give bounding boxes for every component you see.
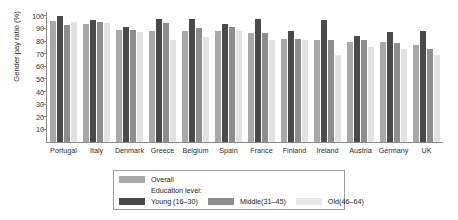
- x-tick-label-denmark: Denmark: [113, 146, 146, 155]
- x-tick-label-austria: Austria: [344, 146, 377, 155]
- y-tick-mark: [42, 28, 46, 29]
- legend-label-old: Old(46–64): [328, 197, 364, 206]
- bar-greece-overall: [149, 31, 155, 142]
- bar-finland-young: [288, 31, 294, 142]
- bar-belgium-middle: [196, 28, 202, 142]
- bar-portugal-old: [71, 22, 77, 142]
- bar-group-austria: [344, 12, 377, 142]
- bar-spain-middle: [229, 27, 235, 142]
- chart-figure: Gender pay ratio (%) 1020304050607080901…: [0, 0, 458, 220]
- bar-france-overall: [248, 33, 254, 142]
- bar-ireland-old: [335, 55, 341, 142]
- y-tick-mark: [42, 15, 46, 16]
- x-tick-label-finland: Finland: [278, 146, 311, 155]
- bar-austria-young: [354, 36, 360, 142]
- bar-portugal-middle: [64, 25, 70, 142]
- y-tick-mark: [42, 78, 46, 79]
- bar-group-finland: [278, 12, 311, 142]
- bar-portugal-overall: [50, 21, 56, 142]
- legend-label-overall: Overall: [151, 175, 174, 184]
- bar-finland-old: [302, 40, 308, 142]
- x-tick-label-spain: Spain: [212, 146, 245, 155]
- legend-row-education: Young (16–30) Middle(31–45) Old(46–64): [119, 196, 339, 207]
- y-tick-mark: [42, 116, 46, 117]
- bar-france-middle: [262, 33, 268, 142]
- bar-uk-middle: [427, 49, 433, 142]
- x-tick-label-germany: Germany: [377, 146, 410, 155]
- bar-italy-young: [90, 20, 96, 142]
- bar-germany-middle: [394, 43, 400, 142]
- bar-ireland-young: [321, 20, 327, 142]
- chart-legend: Overall Education level: Young (16–30) M…: [113, 170, 345, 210]
- bar-italy-old: [104, 23, 110, 142]
- bar-spain-old: [236, 31, 242, 142]
- bar-austria-middle: [361, 40, 367, 142]
- x-axis-line: [46, 142, 443, 143]
- y-tick-mark: [42, 104, 46, 105]
- bar-group-italy: [80, 12, 113, 142]
- legend-label-middle: Middle(31–45): [240, 197, 286, 206]
- legend-swatch-old: [296, 198, 322, 205]
- bar-greece-young: [156, 19, 162, 142]
- bar-portugal-young: [57, 16, 63, 142]
- bar-italy-overall: [83, 24, 89, 142]
- legend-swatch-young: [119, 198, 145, 205]
- bar-austria-old: [368, 47, 374, 142]
- x-tick-label-belgium: Belgium: [179, 146, 212, 155]
- bar-greece-old: [170, 40, 176, 142]
- y-tick-mark: [42, 129, 46, 130]
- bar-austria-overall: [347, 42, 353, 142]
- x-tick-label-france: France: [245, 146, 278, 155]
- x-tick-label-greece: Greece: [146, 146, 179, 155]
- bar-uk-old: [434, 55, 440, 142]
- legend-row-title: Education level:: [119, 185, 339, 196]
- bar-denmark-old: [137, 32, 143, 142]
- legend-label-young: Young (16–30): [151, 197, 198, 206]
- bar-belgium-old: [203, 37, 209, 142]
- bar-finland-overall: [281, 39, 287, 142]
- bar-denmark-overall: [116, 30, 122, 142]
- bar-spain-young: [222, 24, 228, 142]
- bar-group-portugal: [47, 12, 80, 142]
- y-axis-label: Gender pay ratio (%): [12, 0, 21, 107]
- legend-row-overall: Overall: [119, 174, 339, 185]
- bar-group-belgium: [179, 12, 212, 142]
- legend-education-level-title: Education level:: [151, 186, 202, 195]
- bar-group-france: [245, 12, 278, 142]
- plot-area: [47, 12, 443, 142]
- legend-swatch-overall: [119, 176, 145, 183]
- bar-group-ireland: [311, 12, 344, 142]
- y-tick-mark: [42, 41, 46, 42]
- bar-france-young: [255, 19, 261, 142]
- bar-uk-young: [420, 31, 426, 142]
- bar-ireland-overall: [314, 40, 320, 142]
- y-tick-mark: [42, 91, 46, 92]
- bar-finland-middle: [295, 39, 301, 142]
- bar-italy-middle: [97, 22, 103, 142]
- y-tick-mark: [42, 53, 46, 54]
- x-tick-label-ireland: Ireland: [311, 146, 344, 155]
- bar-group-germany: [377, 12, 410, 142]
- bar-group-greece: [146, 12, 179, 142]
- bar-denmark-middle: [130, 30, 136, 142]
- y-tick-mark: [42, 66, 46, 67]
- legend-swatch-middle: [208, 198, 234, 205]
- bar-germany-old: [401, 49, 407, 142]
- bar-uk-overall: [413, 45, 419, 142]
- bar-group-spain: [212, 12, 245, 142]
- x-tick-label-uk: UK: [410, 146, 443, 155]
- bar-france-old: [269, 40, 275, 142]
- bar-belgium-young: [189, 19, 195, 142]
- bar-belgium-overall: [182, 31, 188, 142]
- bar-greece-middle: [163, 23, 169, 142]
- bar-germany-overall: [380, 42, 386, 142]
- bar-spain-overall: [215, 31, 221, 142]
- x-tick-label-portugal: Portugal: [47, 146, 80, 155]
- bar-group-uk: [410, 12, 443, 142]
- x-tick-label-italy: Italy: [80, 146, 113, 155]
- bar-group-denmark: [113, 12, 146, 142]
- bar-germany-young: [387, 32, 393, 142]
- bar-ireland-middle: [328, 40, 334, 142]
- bar-denmark-young: [123, 27, 129, 142]
